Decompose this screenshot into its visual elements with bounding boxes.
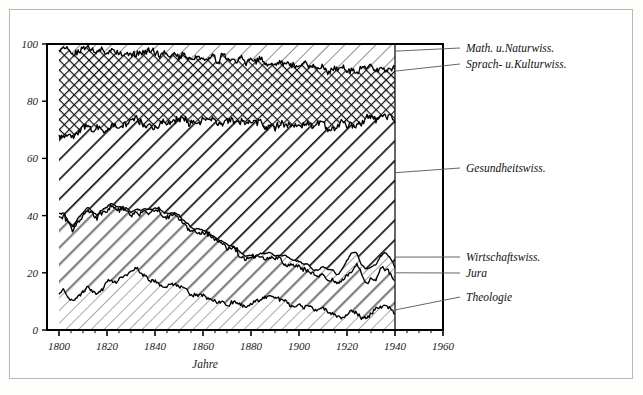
y-tick-label: 20 <box>27 267 39 279</box>
legend-label-gesundheitswiss-: Gesundheitswiss. <box>466 162 546 174</box>
x-tick-label: 1840 <box>144 340 167 352</box>
x-tick-label: 1960 <box>432 340 455 352</box>
legend-leader-line <box>395 64 460 71</box>
x-tick-label: 1880 <box>240 340 263 352</box>
area-bands <box>59 44 395 330</box>
x-axis-label: Jahre <box>192 358 218 370</box>
x-tick-label: 1820 <box>96 340 119 352</box>
y-tick-label: 0 <box>33 324 39 336</box>
legend-leader-line <box>395 168 460 173</box>
y-tick-label: 40 <box>27 210 39 222</box>
x-tick-label: 1940 <box>384 340 407 352</box>
legend-leader-line <box>395 48 460 51</box>
legend-label-theologie: Theologie <box>466 291 512 304</box>
legend-label-wirtschaftswiss-: Wirtschaftswiss. <box>466 251 540 264</box>
y-tick-label: 100 <box>22 38 39 50</box>
y-tick-label: 60 <box>27 152 39 164</box>
x-tick-label: 1860 <box>192 340 215 352</box>
chart-page: 0204060801001800182018401860188019001920… <box>0 0 643 395</box>
x-tick-label: 1900 <box>288 340 311 352</box>
y-tick-label: 80 <box>27 95 39 107</box>
legend: Math. u.Naturwiss.Sprach- u.Kulturwiss.G… <box>395 42 567 310</box>
legend-label-sprach-u-kulturwiss-: Sprach- u.Kulturwiss. <box>466 58 567 71</box>
legend-label-jura: Jura <box>466 267 487 279</box>
legend-leader-line <box>395 297 460 310</box>
x-tick-label: 1920 <box>336 340 359 352</box>
legend-label-math-u-naturwiss-: Math. u.Naturwiss. <box>465 42 554 54</box>
stacked-area-chart: 0204060801001800182018401860188019001920… <box>0 0 643 395</box>
x-tick-label: 1800 <box>48 340 71 352</box>
